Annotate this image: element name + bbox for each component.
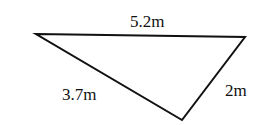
side-label-left: 3.7m: [62, 85, 96, 104]
triangle-diagram: 5.2m 3.7m 2m: [0, 0, 263, 125]
side-label-top: 5.2m: [130, 12, 164, 31]
triangle-shape: [36, 34, 245, 120]
side-label-right: 2m: [225, 81, 247, 100]
